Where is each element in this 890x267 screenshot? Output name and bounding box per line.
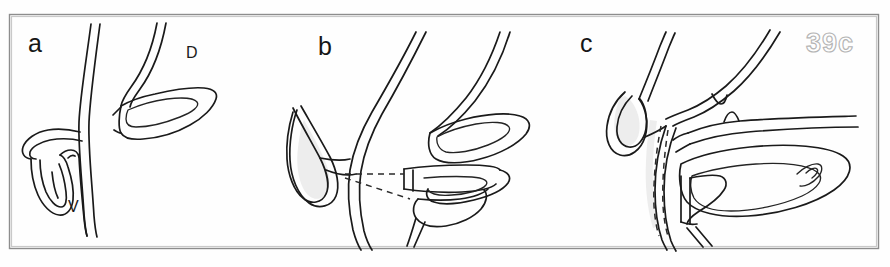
panel-label-a: a (28, 29, 42, 57)
annotation-dorsal-d: D (186, 44, 198, 61)
panel-b-drawing (287, 32, 530, 250)
figure-container: a D V (0, 0, 890, 267)
annotation-ventral-v: V (68, 198, 79, 215)
panel-label-b: b (318, 32, 332, 60)
panel-b-dashed-line-lower (345, 178, 410, 199)
figure-number-label: 39c (806, 28, 854, 58)
panel-label-c: c (580, 29, 593, 57)
figure-line-drawing: a D V (0, 0, 890, 267)
panel-c-drawing (607, 30, 858, 251)
